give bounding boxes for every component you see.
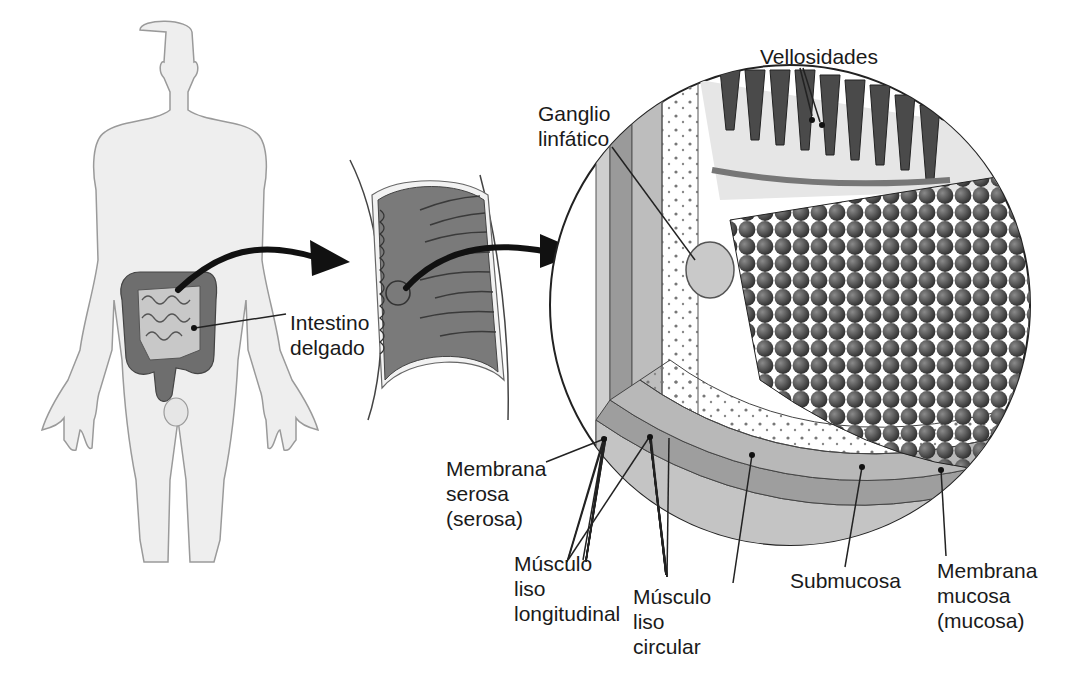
figure-detail <box>164 398 188 426</box>
intestine-segment <box>350 160 508 420</box>
wall-detail-circle <box>550 60 1040 560</box>
label-membrana-mucosa: Membrana mucosa (mucosa) <box>937 558 1037 633</box>
label-intestino-delgado: Intestino delgado <box>290 310 369 360</box>
pointer-dot <box>191 325 197 331</box>
label-vellosidades: Vellosidades <box>760 44 878 69</box>
label-ganglio-linfatico: Ganglio linfático <box>538 101 610 151</box>
label-musculo-longitudinal: Músculo liso longitudinal <box>514 551 620 626</box>
label-membrana-serosa: Membrana serosa (serosa) <box>446 456 546 531</box>
label-musculo-circular: Músculo liso circular <box>633 584 711 659</box>
label-submucosa: Submucosa <box>790 568 901 593</box>
